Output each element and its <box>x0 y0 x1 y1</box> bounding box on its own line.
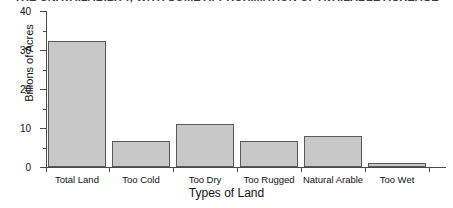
y-axis-title: Billions of Acres <box>23 0 35 138</box>
y-tick-label-30: 30 <box>20 45 31 56</box>
x-tick-1 <box>109 168 110 172</box>
x-tick-5 <box>365 168 366 172</box>
x-category-label-too-dry: Too Dry <box>189 174 222 185</box>
y-tick-label-10: 10 <box>20 123 31 134</box>
y-tick-minor-35 <box>43 31 46 32</box>
x-category-label-natural-arable: Natural Arable <box>303 174 363 185</box>
x-category-label-total-land: Total Land <box>55 174 99 185</box>
x-category-label-too-cold: Too Cold <box>122 174 160 185</box>
y-tick-20: 20 <box>40 89 46 90</box>
y-tick-minor-15 <box>43 109 46 110</box>
x-tick-0 <box>46 168 47 172</box>
x-axis-line <box>46 167 446 168</box>
bar-too-rugged[interactable] <box>240 141 298 167</box>
x-tick-2 <box>173 168 174 172</box>
plot-area: 0 10 20 30 40 Tota <box>46 11 446 168</box>
bar-too-wet[interactable] <box>368 163 426 167</box>
y-tick-minor-25 <box>43 70 46 71</box>
x-axis-title: Types of Land <box>0 186 453 200</box>
x-tick-6 <box>429 168 430 172</box>
y-tick-30: 30 <box>40 50 46 51</box>
x-tick-4 <box>301 168 302 172</box>
bar-natural-arable[interactable] <box>304 136 362 167</box>
x-category-label-too-wet: Too Wet <box>380 174 415 185</box>
chart-title-clipped: THE UNAVAILABILITY, WITH SOME APPROXIMAT… <box>0 0 453 4</box>
y-tick-40: 40 <box>40 11 46 12</box>
y-tick-label-0: 0 <box>25 162 31 173</box>
x-tick-3 <box>237 168 238 172</box>
bar-chart-figure: THE UNAVAILABILITY, WITH SOME APPROXIMAT… <box>0 0 453 208</box>
x-category-label-too-rugged: Too Rugged <box>243 174 294 185</box>
y-tick-minor-5 <box>43 148 46 149</box>
y-tick-label-40: 40 <box>20 6 31 17</box>
y-tick-label-20: 20 <box>20 84 31 95</box>
chart-title-text: THE UNAVAILABILITY, WITH SOME APPROXIMAT… <box>14 0 439 3</box>
bar-total-land[interactable] <box>48 41 106 167</box>
y-axis-line <box>46 11 47 168</box>
bar-too-cold[interactable] <box>112 141 170 167</box>
y-tick-10: 10 <box>40 128 46 129</box>
bar-too-dry[interactable] <box>176 124 234 167</box>
